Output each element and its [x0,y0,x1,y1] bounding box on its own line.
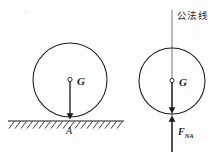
mechanics-figure: G A 公法线 G FNA [0,0,220,157]
right-diagram [139,10,205,152]
normal-force-label-subscript: NA [185,132,194,139]
right-center-marker-icon [170,78,174,82]
normal-force-label: FNA [178,127,194,140]
left-diagram [8,43,124,129]
left-center-marker-icon [68,77,72,81]
contact-point-label: A [66,126,72,136]
normal-force-label-base: F [178,126,185,137]
common-normal-line-label: 公法线 [177,11,208,21]
right-weight-label: G [179,77,187,88]
left-weight-label: G [77,76,85,87]
